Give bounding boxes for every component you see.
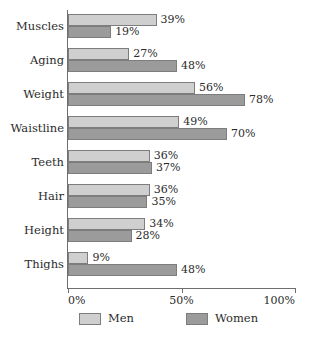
chart-row: Teeth36%37%: [0, 150, 328, 174]
bar-men: [68, 48, 129, 60]
chart-row: Muscles39%19%: [0, 14, 328, 38]
chart-row: Thighs9%48%: [0, 252, 328, 276]
bar-men: [68, 218, 145, 230]
bar-men: [68, 150, 150, 162]
bar-value-label: 49%: [183, 116, 207, 128]
legend-item-men: Men: [79, 312, 134, 325]
category-label: Height: [0, 224, 64, 237]
category-label: Waistline: [0, 122, 64, 135]
chart-row: Weight56%78%: [0, 82, 328, 106]
chart-row: Waistline49%70%: [0, 116, 328, 140]
bar-value-label: 37%: [156, 162, 180, 174]
bar-men: [68, 116, 179, 128]
bar-women: [68, 60, 177, 72]
legend-item-women: Women: [186, 312, 258, 325]
bar-value-label: 28%: [136, 230, 160, 242]
bar-value-label: 56%: [199, 82, 223, 94]
category-label: Muscles: [0, 20, 64, 33]
bar-value-label: 19%: [115, 26, 139, 38]
bar-value-label: 9%: [92, 252, 109, 264]
bar-men: [68, 82, 195, 94]
bar-value-label: 27%: [133, 48, 157, 60]
category-label: Hair: [0, 190, 64, 203]
bar-women: [68, 162, 152, 174]
bar-women: [68, 26, 111, 38]
category-label: Teeth: [0, 156, 64, 169]
x-axis-tick-label: 0%: [68, 294, 85, 307]
chart-row: Hair36%35%: [0, 184, 328, 208]
legend-label-women: Women: [215, 312, 258, 325]
bar-value-label: 39%: [161, 14, 185, 26]
category-label: Aging: [0, 54, 64, 67]
x-axis-tick-label: 50%: [169, 294, 193, 307]
bar-women: [68, 264, 177, 276]
legend-label-men: Men: [108, 312, 134, 325]
x-axis-tick: [182, 288, 183, 293]
bar-women: [68, 230, 132, 242]
bar-women: [68, 196, 147, 208]
chart-legend: Men Women: [0, 312, 328, 334]
bar-women: [68, 128, 227, 140]
bar-women: [68, 94, 245, 106]
category-label: Weight: [0, 88, 64, 101]
legend-swatch-men-icon: [79, 313, 101, 325]
chart-row: Height34%28%: [0, 218, 328, 242]
bar-chart: 0%50%100% Muscles39%19%Aging27%48%Weight…: [0, 0, 328, 337]
legend-swatch-women-icon: [186, 313, 208, 325]
bar-value-label: 35%: [151, 196, 175, 208]
x-axis-tick: [295, 288, 296, 293]
bar-men: [68, 184, 150, 196]
chart-row: Aging27%48%: [0, 48, 328, 72]
bar-value-label: 70%: [231, 128, 255, 140]
category-label: Thighs: [0, 258, 64, 271]
bar-value-label: 78%: [249, 94, 273, 106]
bar-value-label: 48%: [181, 264, 205, 276]
x-axis-tick: [68, 288, 69, 293]
bar-men: [68, 14, 157, 26]
bar-men: [68, 252, 88, 264]
bar-value-label: 48%: [181, 60, 205, 72]
x-axis-tick-label: 100%: [264, 294, 295, 307]
